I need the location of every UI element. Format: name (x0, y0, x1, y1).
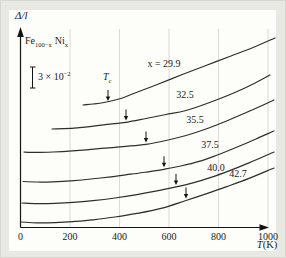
curie-temperature-label: Tc (103, 72, 111, 85)
series-label-x-42.7: 42.7 (229, 168, 247, 179)
series-label-x-29.9: x = 29.9 (147, 58, 180, 69)
series-label-x-35.5: 35.5 (186, 114, 204, 125)
x-tick-label-1000: 1000 (258, 231, 278, 242)
x-tick-label-400: 400 (112, 231, 127, 242)
x-tick-label-600: 600 (162, 231, 177, 242)
curve-x-35.5 (24, 100, 274, 152)
tc-arrow-head-x-35.5 (144, 138, 148, 143)
y-axis-label: Δ/l (15, 10, 28, 21)
sample-fe-subscript: 100−x (35, 41, 52, 48)
tc-subscript: c (109, 77, 112, 84)
x-tick-label-800: 800 (211, 231, 226, 242)
scale-bar-label: 3 × 10−2 (38, 71, 71, 82)
tc-arrow-head-x-40 (174, 180, 178, 185)
scale-bar-exponent: −2 (64, 70, 71, 77)
sample-formula-label: Fe100−xNix (25, 36, 68, 49)
x-tick-label-200: 200 (63, 231, 78, 242)
tc-arrow-head-x-37.5 (162, 163, 166, 168)
x-tick-label-0: 0 (18, 231, 23, 242)
series-label-x-37.5: 37.5 (201, 139, 219, 150)
tc-arrow-head-x-32.5 (124, 116, 128, 121)
scale-bar-coefficient: 3 × 10 (38, 71, 64, 82)
sample-fe: Fe (25, 35, 35, 46)
y-axis-arrowhead (17, 27, 24, 37)
series-label-x-32.5: 32.5 (176, 89, 194, 100)
sample-ni: Ni (55, 35, 65, 46)
tc-arrow-head-x-29.9 (106, 97, 110, 102)
series-label-x-40: 40.0 (207, 162, 225, 173)
sample-ni-subscript: x (65, 41, 68, 48)
tc-arrow-head-x-42.7 (184, 194, 188, 199)
figure: Δ/l Fe100−xNix 3 × 10−2 Tc T(K) x = 29.9… (0, 0, 286, 258)
